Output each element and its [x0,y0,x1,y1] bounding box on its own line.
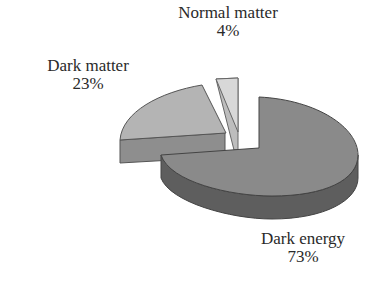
label-dark-matter-value: 23% [28,75,148,93]
label-dark-matter-name: Dark matter [28,57,148,75]
label-dark-matter: Dark matter 23% [28,57,148,93]
label-normal-matter-name: Normal matter [148,4,308,22]
label-dark-energy: Dark energy 73% [228,230,378,266]
slice-dark-matter-top [120,85,226,140]
label-dark-energy-name: Dark energy [228,230,378,248]
label-dark-energy-value: 73% [228,248,378,266]
label-normal-matter-value: 4% [148,22,308,40]
label-normal-matter: Normal matter 4% [148,4,308,40]
